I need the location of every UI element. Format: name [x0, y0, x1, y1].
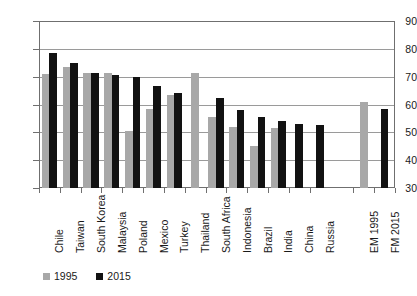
x-axis-tick-mark [247, 188, 248, 193]
bar-2015 [316, 125, 324, 188]
bar-group [122, 21, 143, 188]
bar-1995 [229, 127, 237, 188]
bar-2015 [153, 86, 161, 188]
bar-group [185, 21, 206, 188]
bar-1995 [360, 102, 368, 188]
x-axis-label-fm-2015: FM 2015 [389, 212, 401, 253]
x-axis-tick-mark [101, 188, 102, 193]
bar-group [374, 21, 395, 188]
bar-1995 [63, 67, 71, 188]
x-axis-label-malaysia: Malaysia [116, 212, 128, 253]
x-axis-tick-mark [60, 188, 61, 193]
legend-label: 2015 [107, 271, 130, 281]
bar-group [39, 21, 60, 188]
bar-2015 [91, 73, 99, 189]
bar-2015 [112, 75, 120, 188]
bars-layer [39, 21, 395, 188]
bar-1995 [208, 117, 216, 188]
x-axis-tick-mark [289, 188, 290, 193]
bar-2015 [133, 77, 141, 188]
x-axis-label-taiwan: Taiwan [74, 220, 86, 253]
x-axis-tick-mark [310, 188, 311, 193]
bar-1995 [167, 95, 175, 188]
legend-item-1995[interactable]: 1995 [43, 271, 77, 281]
bar-2015 [70, 63, 78, 188]
x-axis-label-south-korea: South Korea [95, 195, 107, 253]
x-axis-label-poland: Poland [137, 220, 149, 253]
bar-2015 [258, 117, 266, 188]
bar-2015 [216, 98, 224, 188]
x-axis-tick-mark [81, 188, 82, 193]
x-axis-tick-mark [39, 188, 40, 193]
x-axis-label-turkey: Turkey [178, 221, 190, 253]
bar-chart: 90807060504030 ChileTaiwanSouth KoreaMal… [0, 0, 417, 296]
x-axis-label-india: India [282, 230, 294, 253]
legend-swatch-icon [43, 273, 50, 280]
bar-2015 [278, 121, 286, 188]
x-axis-label-china: China [303, 226, 315, 253]
bar-group [60, 21, 81, 188]
bar-1995 [191, 73, 199, 189]
bar-1995 [83, 73, 91, 189]
x-axis-tick-mark [374, 188, 375, 193]
bar-group [353, 21, 374, 188]
bar-group [101, 21, 122, 188]
x-axis-tick-mark [122, 188, 123, 193]
legend-item-2015[interactable]: 2015 [96, 271, 130, 281]
legend-swatch-icon [96, 273, 103, 280]
bar-group [310, 21, 331, 188]
x-axis-tick-mark [353, 188, 354, 193]
bar-group [268, 21, 289, 188]
chart-legend: 19952015 [43, 271, 131, 281]
x-axis-tick-mark [185, 188, 186, 193]
bar-group [81, 21, 102, 188]
x-axis-tick-mark [268, 188, 269, 193]
bar-2015 [381, 109, 389, 188]
bar-1995 [104, 73, 112, 189]
x-axis-label-indonesia: Indonesia [241, 207, 253, 253]
legend-label: 1995 [54, 271, 77, 281]
bar-group [247, 21, 268, 188]
x-axis-label-thailand: Thailand [199, 213, 211, 253]
bar-2015 [237, 110, 245, 188]
bar-group [143, 21, 164, 188]
x-axis-tick-mark [143, 188, 144, 193]
x-axis-tick-mark [395, 188, 396, 193]
x-axis-label-brazil: Brazil [262, 227, 274, 253]
bar-1995 [146, 109, 154, 188]
bar-2015 [295, 124, 303, 188]
x-axis-tick-mark [164, 188, 165, 193]
x-axis-label-em-1995: EM 1995 [368, 211, 380, 253]
bar-1995 [271, 128, 279, 188]
x-axis-tick-mark [226, 188, 227, 193]
x-axis-label-south-africa: South Africa [220, 196, 232, 253]
bar-2015 [49, 53, 57, 188]
bar-group [226, 21, 247, 188]
x-axis-tick-mark [206, 188, 207, 193]
bar-group [289, 21, 310, 188]
x-axis-label-mexico: Mexico [158, 220, 170, 253]
bar-1995 [250, 146, 258, 188]
x-axis-label-chile: Chile [53, 229, 65, 253]
bar-1995 [42, 74, 50, 188]
x-axis-label-russia: Russia [324, 221, 336, 253]
bar-group [164, 21, 185, 188]
bar-2015 [174, 93, 182, 188]
bar-1995 [125, 131, 133, 188]
bar-group [206, 21, 227, 188]
